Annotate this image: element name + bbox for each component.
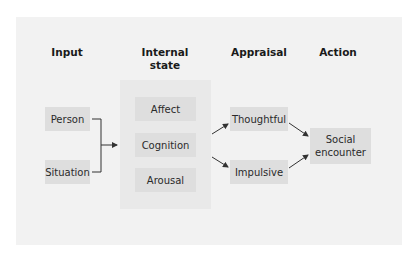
node-social-encounter: Social encounter <box>310 128 371 164</box>
node-impulsive: Impulsive <box>230 160 288 184</box>
node-person: Person <box>45 107 90 131</box>
header-input: Input <box>40 46 94 59</box>
header-appraisal: Appraisal <box>220 46 298 59</box>
node-affect: Affect <box>135 97 196 121</box>
header-internal-state-line2: state <box>125 59 205 72</box>
header-internal-state-line1: Internal <box>125 46 205 59</box>
node-situation: Situation <box>45 160 90 184</box>
node-social-encounter-line2: encounter <box>315 146 366 159</box>
node-social-encounter-line1: Social <box>326 133 356 146</box>
node-thoughtful: Thoughtful <box>230 107 288 131</box>
node-arousal: Arousal <box>135 168 196 192</box>
node-cognition: Cognition <box>135 133 196 157</box>
header-internal-state: Internal state <box>125 46 205 72</box>
header-action: Action <box>306 46 370 59</box>
